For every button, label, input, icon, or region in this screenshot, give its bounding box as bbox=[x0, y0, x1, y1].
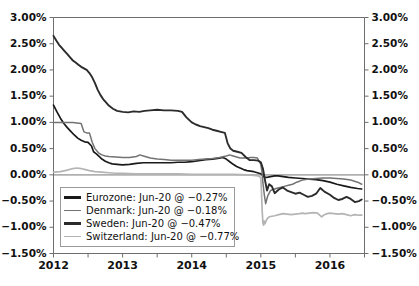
y-axis-label-right: −1.00% bbox=[372, 221, 417, 232]
legend-item-label: Eurozone: Jun-20 @ −0.27% bbox=[86, 191, 228, 204]
y-axis-label-right: 1.00% bbox=[372, 116, 408, 127]
legend-color-swatch bbox=[64, 196, 81, 198]
y-axis-label-left: −0.50% bbox=[0, 195, 47, 206]
y-axis-label-left: 0.50% bbox=[0, 143, 47, 154]
legend-color-swatch bbox=[64, 222, 81, 225]
y-axis-label-left: −1.00% bbox=[0, 221, 47, 232]
y-axis-label-right: 2.00% bbox=[372, 64, 408, 75]
legend-item-label: Switzerland: Jun-20 @ −0.77% bbox=[86, 230, 239, 243]
legend-color-swatch bbox=[64, 210, 81, 212]
y-axis-label-left: 1.50% bbox=[0, 90, 47, 101]
legend-item[interactable]: Sweden: Jun-20 @ −0.47% bbox=[64, 217, 230, 230]
legend-item[interactable]: Eurozone: Jun-20 @ −0.27% bbox=[64, 191, 230, 204]
y-axis-label-left: −1.50% bbox=[0, 248, 47, 259]
x-axis-label: 2014 bbox=[166, 260, 218, 271]
legend-color-swatch bbox=[64, 236, 81, 238]
y-axis-label-left: 1.00% bbox=[0, 116, 47, 127]
y-axis-label-right: 1.50% bbox=[372, 90, 408, 101]
legend-item[interactable]: Denmark: Jun-20 @ −0.18% bbox=[64, 204, 230, 217]
chart-legend: Eurozone: Jun-20 @ −0.27%Denmark: Jun-20… bbox=[60, 187, 235, 247]
y-axis-label-right: −0.50% bbox=[372, 195, 417, 206]
series-line-eurozone bbox=[54, 105, 362, 189]
y-axis-label-left: 2.00% bbox=[0, 64, 47, 75]
x-axis-label: 2012 bbox=[28, 260, 80, 271]
legend-item-label: Sweden: Jun-20 @ −0.47% bbox=[86, 217, 221, 230]
y-axis-label-right: 0.50% bbox=[372, 143, 408, 154]
y-axis-label-right: 2.50% bbox=[372, 38, 408, 49]
x-axis-label: 2015 bbox=[235, 260, 287, 271]
legend-item-label: Denmark: Jun-20 @ −0.18% bbox=[86, 204, 227, 217]
legend-item[interactable]: Switzerland: Jun-20 @ −0.77% bbox=[64, 230, 230, 243]
y-axis-label-left: 0.00% bbox=[0, 169, 47, 180]
y-axis-label-right: −1.50% bbox=[372, 248, 417, 259]
y-axis-label-right: 0.00% bbox=[372, 169, 408, 180]
series-line-sweden bbox=[54, 36, 362, 202]
x-axis-label: 2016 bbox=[304, 260, 356, 271]
y-axis-label-left: 2.50% bbox=[0, 38, 47, 49]
y-axis-label-right: 3.00% bbox=[372, 12, 408, 23]
x-axis-label: 2013 bbox=[97, 260, 149, 271]
y-axis-label-left: 3.00% bbox=[0, 12, 47, 23]
chart-container: 3.00%3.00%2.50%2.50%2.00%2.00%1.50%1.50%… bbox=[0, 0, 419, 286]
